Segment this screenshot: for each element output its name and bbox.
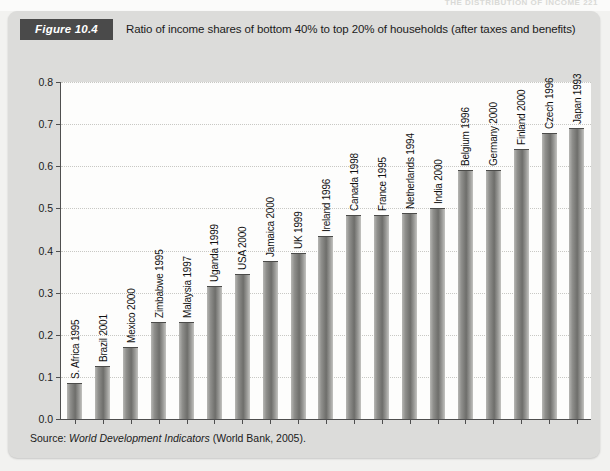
chart-bar: Netherlands 1994 bbox=[402, 213, 417, 419]
bar-category-label: Netherlands 1994 bbox=[404, 133, 415, 209]
x-axis-tick-mark bbox=[577, 419, 578, 424]
chart-bar: S. Africa 1995 bbox=[67, 383, 82, 419]
x-axis-tick-mark bbox=[549, 419, 550, 424]
y-axis-tick-label: 0.0 bbox=[38, 413, 53, 425]
chart-bars: S. Africa 1995Brazil 2001Mexico 2000Zimb… bbox=[61, 82, 591, 419]
bar-slot: Uganda 1999 bbox=[200, 82, 228, 419]
bar-slot: Czech 1996 bbox=[535, 82, 563, 419]
chart-bar: Germany 2000 bbox=[486, 170, 501, 419]
x-axis-tick-mark bbox=[326, 419, 327, 424]
bar-category-label: Mexico 2000 bbox=[125, 289, 136, 344]
chart-bar: Japan 1993 bbox=[569, 128, 584, 419]
bar-category-label: S. Africa 1995 bbox=[69, 320, 80, 379]
bar-category-label: Uganda 1999 bbox=[209, 224, 220, 282]
y-axis-tick-mark bbox=[56, 419, 61, 420]
y-axis-tick-label: 0.2 bbox=[38, 329, 53, 341]
bar-slot: Canada 1998 bbox=[340, 82, 368, 419]
bar-slot: Brazil 2001 bbox=[89, 82, 117, 419]
y-axis-tick-label: 0.1 bbox=[38, 371, 53, 383]
bar-category-label: Belgium 1996 bbox=[460, 108, 471, 167]
x-axis-tick-mark bbox=[382, 419, 383, 424]
bar-category-label: Finland 2000 bbox=[516, 90, 527, 145]
chart-bar: Uganda 1999 bbox=[207, 286, 222, 419]
bar-category-label: USA 2000 bbox=[237, 226, 248, 269]
chart-bar: Belgium 1996 bbox=[458, 170, 473, 419]
bar-slot: S. Africa 1995 bbox=[61, 82, 89, 419]
y-axis-tick-label: 0.6 bbox=[38, 160, 53, 172]
x-axis-tick-mark bbox=[493, 419, 494, 424]
y-axis-tick-label: 0.8 bbox=[38, 76, 53, 88]
bar-category-label: India 2000 bbox=[432, 160, 443, 205]
bar-slot: Germany 2000 bbox=[479, 82, 507, 419]
bar-slot: UK 1999 bbox=[284, 82, 312, 419]
bar-category-label: Canada 1998 bbox=[348, 153, 359, 211]
figure-number-badge: Figure 10.4 bbox=[20, 19, 113, 40]
bar-slot: Ireland 1996 bbox=[312, 82, 340, 419]
x-axis-tick-mark bbox=[187, 419, 188, 424]
page-running-head: THE DISTRIBUTION OF INCOME 221 bbox=[0, 0, 610, 11]
bar-category-label: UK 1999 bbox=[293, 211, 304, 249]
bar-category-label: Malaysia 1997 bbox=[181, 256, 192, 318]
x-axis-tick-mark bbox=[242, 419, 243, 424]
x-axis-tick-mark bbox=[521, 419, 522, 424]
x-axis-tick-mark bbox=[354, 419, 355, 424]
bar-slot: USA 2000 bbox=[228, 82, 256, 419]
x-axis-tick-mark bbox=[270, 419, 271, 424]
chart-bar: India 2000 bbox=[430, 208, 445, 419]
bar-category-label: France 1995 bbox=[376, 157, 387, 211]
x-axis-tick-mark bbox=[103, 419, 104, 424]
chart-bar: USA 2000 bbox=[235, 274, 250, 419]
x-axis-tick-mark bbox=[438, 419, 439, 424]
bar-category-label: Zimbabwe 1995 bbox=[153, 250, 164, 319]
x-axis-tick-mark bbox=[298, 419, 299, 424]
figure-caption-row: Figure 10.4 Ratio of income shares of bo… bbox=[20, 19, 588, 41]
scanned-page: THE DISTRIBUTION OF INCOME 221 Figure 10… bbox=[0, 0, 610, 471]
chart-bar: Malaysia 1997 bbox=[179, 322, 194, 419]
x-axis-tick-mark bbox=[214, 419, 215, 424]
bar-category-label: Germany 2000 bbox=[488, 103, 499, 167]
bar-slot: Finland 2000 bbox=[507, 82, 535, 419]
bar-slot: Japan 1993 bbox=[563, 82, 591, 419]
bar-slot: Zimbabwe 1995 bbox=[145, 82, 173, 419]
x-axis-tick-mark bbox=[75, 419, 76, 424]
chart-bar: Czech 1996 bbox=[542, 133, 557, 419]
bar-category-label: Japan 1993 bbox=[571, 74, 582, 124]
bar-slot: India 2000 bbox=[424, 82, 452, 419]
x-axis-tick-mark bbox=[465, 419, 466, 424]
running-head-text: THE DISTRIBUTION OF INCOME 221 bbox=[445, 0, 598, 7]
source-suffix: (World Bank, 2005). bbox=[210, 432, 306, 444]
chart-bar: Brazil 2001 bbox=[95, 366, 110, 419]
chart-bar: Mexico 2000 bbox=[123, 347, 138, 419]
source-prefix: Source: bbox=[30, 432, 69, 444]
chart-bar: Canada 1998 bbox=[346, 215, 361, 419]
chart-bar: Zimbabwe 1995 bbox=[151, 322, 166, 419]
x-axis-tick-mark bbox=[410, 419, 411, 424]
bar-slot: Jamaica 2000 bbox=[256, 82, 284, 419]
chart-plot-area: 0.00.10.20.30.40.50.60.70.8 S. Africa 19… bbox=[51, 71, 591, 420]
bar-slot: Belgium 1996 bbox=[451, 82, 479, 419]
bar-slot: France 1995 bbox=[368, 82, 396, 419]
y-axis-tick-label: 0.4 bbox=[38, 245, 53, 257]
bar-slot: Malaysia 1997 bbox=[173, 82, 201, 419]
y-axis-tick-label: 0.3 bbox=[38, 287, 53, 299]
bar-category-label: Ireland 1996 bbox=[320, 179, 331, 232]
bar-category-label: Czech 1996 bbox=[544, 77, 555, 128]
chart-bar: Jamaica 2000 bbox=[263, 261, 278, 419]
figure-panel: Figure 10.4 Ratio of income shares of bo… bbox=[8, 11, 600, 458]
source-title: World Development Indicators bbox=[69, 432, 210, 444]
figure-source-note: Source: World Development Indicators (Wo… bbox=[30, 432, 306, 444]
chart-bar: Ireland 1996 bbox=[318, 236, 333, 419]
bar-category-label: Brazil 2001 bbox=[97, 315, 108, 363]
y-axis-tick-label: 0.7 bbox=[38, 118, 53, 130]
chart-bar: UK 1999 bbox=[291, 253, 306, 419]
chart-bar: France 1995 bbox=[374, 215, 389, 419]
bar-slot: Mexico 2000 bbox=[117, 82, 145, 419]
bar-category-label: Jamaica 2000 bbox=[265, 197, 276, 257]
x-axis-tick-mark bbox=[131, 419, 132, 424]
x-axis-tick-mark bbox=[159, 419, 160, 424]
bar-slot: Netherlands 1994 bbox=[396, 82, 424, 419]
chart-bar: Finland 2000 bbox=[514, 149, 529, 419]
figure-caption-text: Ratio of income shares of bottom 40% to … bbox=[126, 19, 576, 40]
y-axis-tick-label: 0.5 bbox=[38, 202, 53, 214]
chart-canvas: 0.00.10.20.30.40.50.60.70.8 S. Africa 19… bbox=[60, 82, 591, 420]
